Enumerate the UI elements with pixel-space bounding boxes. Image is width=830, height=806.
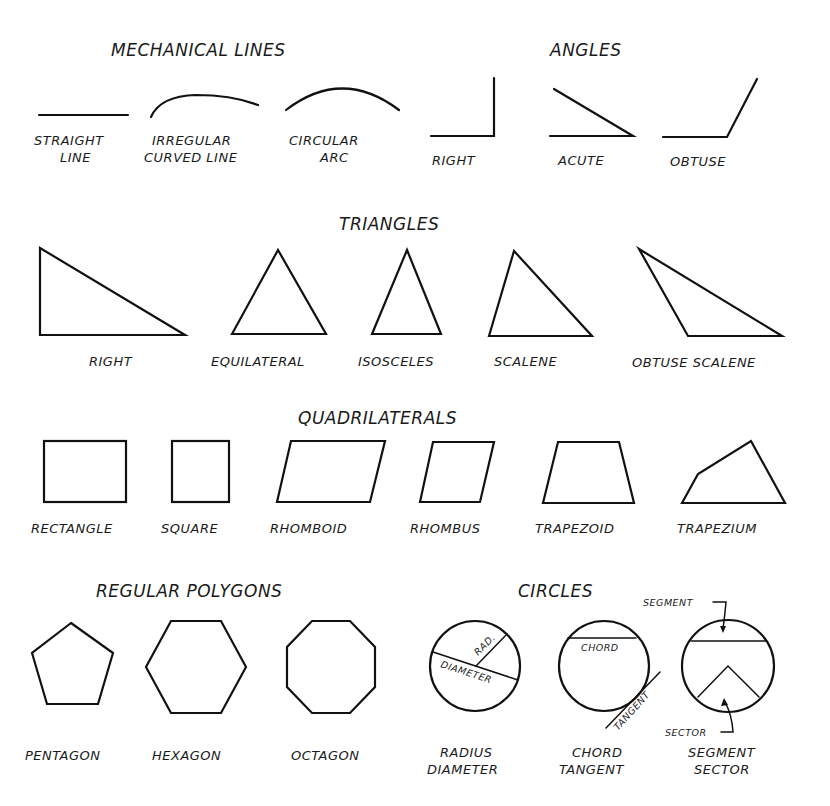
equilateral-triangle-shape [232, 250, 326, 334]
tangent-annotation: TANGENT [611, 689, 652, 733]
radius-annotation: RAD. [472, 632, 498, 658]
scalene-triangle-label: SCALENE [494, 354, 557, 369]
segment-sector-label-1: SEGMENT [688, 745, 756, 760]
trapezoid-label: TRAPEZOID [535, 521, 614, 536]
square-shape [172, 441, 229, 502]
triangles-title: TRIANGLES [339, 214, 439, 234]
angles-title: ANGLES [549, 40, 622, 60]
circular-arc-label-2: ARC [319, 150, 349, 165]
right-angle-label: RIGHT [432, 153, 476, 168]
octagon-shape [287, 621, 375, 713]
segment-leader-arrow [713, 602, 726, 629]
quadrilaterals-section: QUADRILATERALS RECTANGLE SQUARE RHOMBOID… [31, 408, 785, 536]
acute-angle-shape [550, 89, 633, 136]
angles-section: ANGLES RIGHT ACUTE OBTUSE [431, 40, 757, 169]
triangles-section: TRIANGLES RIGHT EQUILATERAL ISOSCELES SC… [40, 214, 782, 370]
chord-annotation: CHORD [581, 642, 619, 653]
regular-polygons-section: REGULAR POLYGONS PENTAGON HEXAGON OCTAGO… [25, 581, 375, 763]
regular-polygons-title: REGULAR POLYGONS [96, 581, 282, 601]
segment-sector-circle: SEGMENT SECTOR [643, 597, 774, 738]
obtuse-scalene-triangle-label: OBTUSE SCALENE [632, 355, 756, 370]
rhomboid-shape [277, 441, 385, 502]
circular-arc-shape [286, 89, 399, 111]
segment-annotation: SEGMENT [643, 597, 694, 608]
straight-line-label-1: STRAIGHT [34, 133, 104, 148]
pentagon-shape [32, 623, 113, 704]
obtuse-angle-label: OBTUSE [670, 154, 726, 169]
right-triangle-shape [40, 248, 185, 335]
irregular-curved-line-label-1: IRREGULAR [152, 133, 231, 148]
circular-arc-label-1: CIRCULAR [289, 133, 359, 148]
radius-diameter-label-2: DIAMETER [427, 762, 498, 777]
rhombus-shape [420, 442, 494, 502]
sector-leader-arrow [721, 702, 733, 732]
irregular-curved-line-label-2: CURVED LINE [144, 150, 238, 165]
equilateral-triangle-label: EQUILATERAL [211, 354, 305, 369]
trapezoid-shape [543, 442, 634, 503]
isosceles-triangle-label: ISOSCELES [358, 354, 434, 369]
hexagon-label: HEXAGON [152, 748, 221, 763]
straight-line-label-2: LINE [60, 150, 91, 165]
trapezium-shape [682, 441, 785, 503]
scalene-triangle-shape [489, 251, 592, 336]
right-angle-shape [431, 78, 494, 136]
irregular-curved-line-shape [151, 95, 258, 117]
acute-angle-label: ACUTE [557, 153, 604, 168]
isosceles-triangle-shape [372, 250, 441, 334]
hexagon-shape [146, 621, 246, 713]
rectangle-shape [44, 441, 126, 502]
radius-diameter-label-1: RADIUS [440, 745, 493, 760]
chord-tangent-label-2: TANGENT [559, 762, 624, 777]
segment-sector-label-2: SECTOR [694, 762, 750, 777]
pentagon-label: PENTAGON [25, 748, 100, 763]
sector-annotation: SECTOR [665, 727, 707, 738]
rhombus-label: RHOMBUS [410, 521, 480, 536]
obtuse-angle-shape [663, 79, 757, 137]
mechanical-lines-title: MECHANICAL LINES [111, 40, 286, 60]
mechanical-lines-section: MECHANICAL LINES STRAIGHT LINE IRREGULAR… [34, 40, 399, 165]
rectangle-label: RECTANGLE [31, 521, 113, 536]
sector-radii-lines [698, 666, 759, 697]
square-label: SQUARE [161, 521, 218, 536]
chord-tangent-circle: CHORD TANGENT [559, 621, 660, 732]
rhomboid-label: RHOMBOID [270, 521, 347, 536]
chord-tangent-label-1: CHORD [572, 745, 623, 760]
octagon-label: OCTAGON [291, 748, 359, 763]
segment-arrowhead-icon [720, 626, 726, 633]
radius-diameter-circle: RAD. DIAMETER [430, 621, 520, 711]
sector-arrowhead-icon [721, 698, 728, 706]
circles-section: CIRCLES RAD. DIAMETER RADIUS DIAMETER CH… [427, 581, 774, 777]
right-triangle-label: RIGHT [89, 354, 133, 369]
geometric-shapes-diagram: MECHANICAL LINES STRAIGHT LINE IRREGULAR… [0, 0, 830, 806]
quadrilaterals-title: QUADRILATERALS [298, 408, 457, 428]
circles-title: CIRCLES [518, 581, 593, 601]
trapezium-label: TRAPEZIUM [677, 521, 757, 536]
obtuse-scalene-triangle-shape [639, 249, 782, 336]
